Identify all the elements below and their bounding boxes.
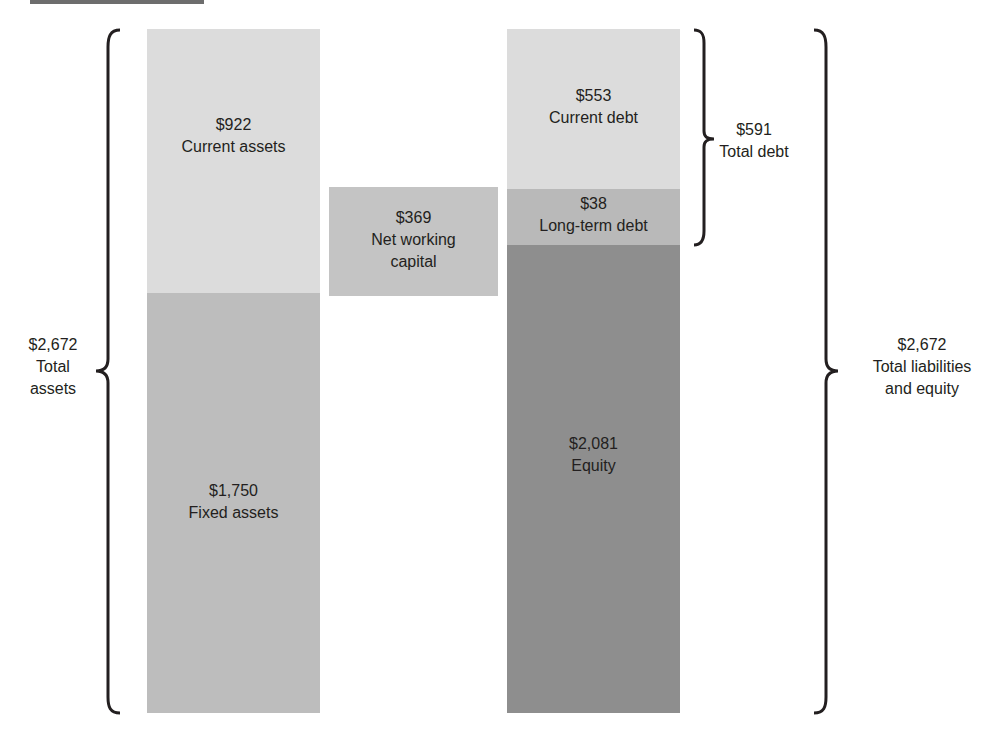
total-liabilities-equity-value: $2,672 — [842, 334, 1002, 356]
current-assets-block: $922 Current assets — [147, 29, 320, 293]
nwc-value: $369 — [396, 207, 432, 229]
total-assets-value: $2,672 — [18, 334, 88, 356]
left-brace-icon — [88, 29, 128, 715]
total-liabilities-equity-text-line2: and equity — [842, 378, 1002, 400]
long-term-debt-block: $38 Long-term debt — [507, 189, 680, 245]
total-liabilities-equity-label: $2,672 Total liabilities and equity — [842, 334, 1002, 400]
total-liabilities-equity-text-line1: Total liabilities — [842, 356, 1002, 378]
total-debt-value: $591 — [718, 119, 790, 141]
equity-label: Equity — [571, 455, 615, 477]
nwc-label-line2: capital — [390, 251, 436, 273]
total-debt-label: $591 Total debt — [718, 119, 790, 163]
current-debt-block: $553 Current debt — [507, 29, 680, 189]
header-bar — [30, 0, 204, 4]
current-assets-value: $922 — [216, 114, 252, 136]
equity-value: $2,081 — [569, 433, 618, 455]
fixed-assets-value: $1,750 — [209, 480, 258, 502]
equity-block: $2,081 Equity — [507, 245, 680, 713]
current-debt-label: Current debt — [549, 107, 638, 129]
long-term-debt-value: $38 — [580, 193, 607, 215]
total-assets-text-line1: Total — [18, 356, 88, 378]
total-assets-label: $2,672 Total assets — [18, 334, 88, 400]
long-term-debt-label: Long-term debt — [539, 215, 648, 237]
nwc-label-line1: Net working — [371, 229, 455, 251]
total-assets-text-line2: assets — [18, 378, 88, 400]
current-debt-value: $553 — [576, 85, 612, 107]
current-assets-label: Current assets — [181, 136, 285, 158]
total-debt-text: Total debt — [718, 141, 790, 163]
fixed-assets-block: $1,750 Fixed assets — [147, 293, 320, 713]
net-working-capital-block: $369 Net working capital — [329, 187, 498, 296]
fixed-assets-label: Fixed assets — [189, 502, 279, 524]
